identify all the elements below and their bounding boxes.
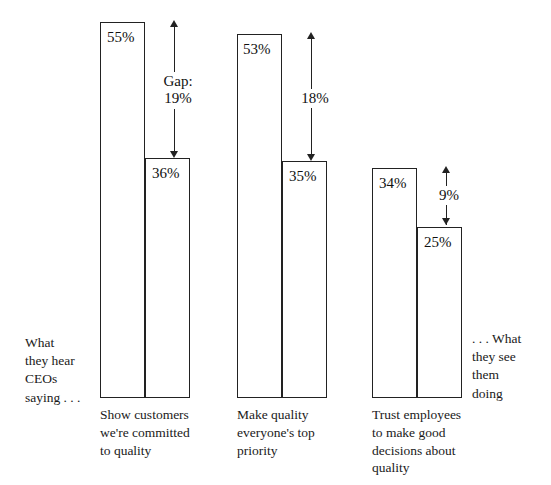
category-caption-group1-line3: to quality (100, 442, 218, 460)
bar-label-group3-hear: 34% (379, 176, 407, 191)
chart-canvas: 55% 36% Gap: 19% Show customers we're co… (0, 0, 551, 485)
category-caption-group1-line1: Show customers (100, 406, 218, 424)
bar-label-group3-see: 25% (424, 235, 452, 250)
gap-label-value-group3: 9% (431, 187, 467, 204)
bar-label-group1-see: 36% (152, 166, 180, 181)
annotation-right-line1: . . . What (472, 330, 547, 348)
annotation-left-line2: they hear (25, 352, 100, 370)
annotation-right-line3: them (472, 366, 547, 384)
bar-group3-hear (372, 168, 417, 398)
bar-group2-see (282, 161, 327, 398)
annotation-left-line1: What (25, 334, 100, 352)
annotation-left-line4: saying . . . (25, 389, 100, 407)
category-caption-group3: Trust employees to make good decisions a… (372, 406, 498, 477)
bar-label-group2-see: 35% (289, 169, 317, 184)
bar-label-group2-hear: 53% (243, 42, 271, 57)
annotation-left-line3: CEOs (25, 370, 100, 388)
gap-label-group3: 9% (429, 186, 469, 205)
category-caption-group2-line3: priority (237, 442, 355, 460)
category-caption-group1: Show customers we're committed to qualit… (100, 406, 218, 459)
category-caption-group2-line2: everyone's top (237, 424, 355, 442)
category-caption-group2: Make quality everyone's top priority (237, 406, 355, 459)
bar-label-group1-hear: 55% (107, 30, 135, 45)
category-caption-group3-line4: quality (372, 459, 498, 477)
gap-arrow-head-down-group3 (442, 218, 450, 225)
annotation-right-line4: doing (472, 385, 547, 403)
gap-arrow-head-up-group2 (307, 32, 315, 39)
bar-group3-see (417, 227, 462, 398)
category-caption-group1-line2: we're committed (100, 424, 218, 442)
gap-arrow-head-up-group3 (442, 166, 450, 173)
gap-arrow-head-up-group1 (170, 20, 178, 27)
gap-label-prefix-group1: Gap: (150, 73, 206, 90)
gap-label-value-group2: 18% (295, 90, 335, 107)
bar-group1-see (145, 158, 190, 398)
annotation-right-line2: they see (472, 348, 547, 366)
category-caption-group3-line2: to make good (372, 424, 498, 442)
annotation-left-hear: What they hear CEOs saying . . . (25, 334, 100, 407)
gap-label-group2: 18% (293, 89, 337, 108)
category-caption-group2-line1: Make quality (237, 406, 355, 424)
gap-arrow-head-down-group1 (170, 151, 178, 158)
gap-label-group1: Gap: 19% (148, 72, 208, 109)
category-caption-group3-line3: decisions about (372, 442, 498, 460)
annotation-right-see: . . . What they see them doing (472, 330, 547, 403)
bar-group1-hear (100, 22, 145, 398)
category-caption-group3-line1: Trust employees (372, 406, 498, 424)
gap-label-value-group1: 19% (150, 90, 206, 107)
gap-arrow-head-down-group2 (307, 154, 315, 161)
bar-group2-hear (237, 34, 282, 398)
